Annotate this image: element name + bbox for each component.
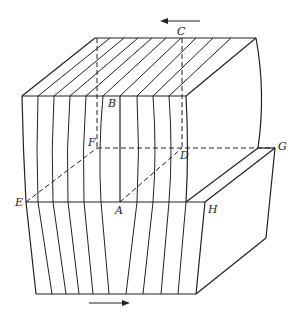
top-force-arrow — [160, 18, 200, 24]
label-E: E — [14, 196, 23, 209]
label-A: A — [114, 204, 123, 217]
top-face — [22, 38, 256, 96]
label-G: G — [278, 140, 287, 153]
shear-diagram: C B F D G E A H — [0, 0, 301, 324]
label-B: B — [107, 97, 116, 110]
label-F: F — [87, 136, 96, 149]
label-H: H — [207, 203, 218, 216]
right-curved-edge — [256, 38, 262, 148]
bottom-force-arrow — [89, 300, 130, 306]
label-D: D — [179, 149, 189, 162]
label-C: C — [177, 25, 186, 38]
lower-right-block — [186, 148, 275, 294]
